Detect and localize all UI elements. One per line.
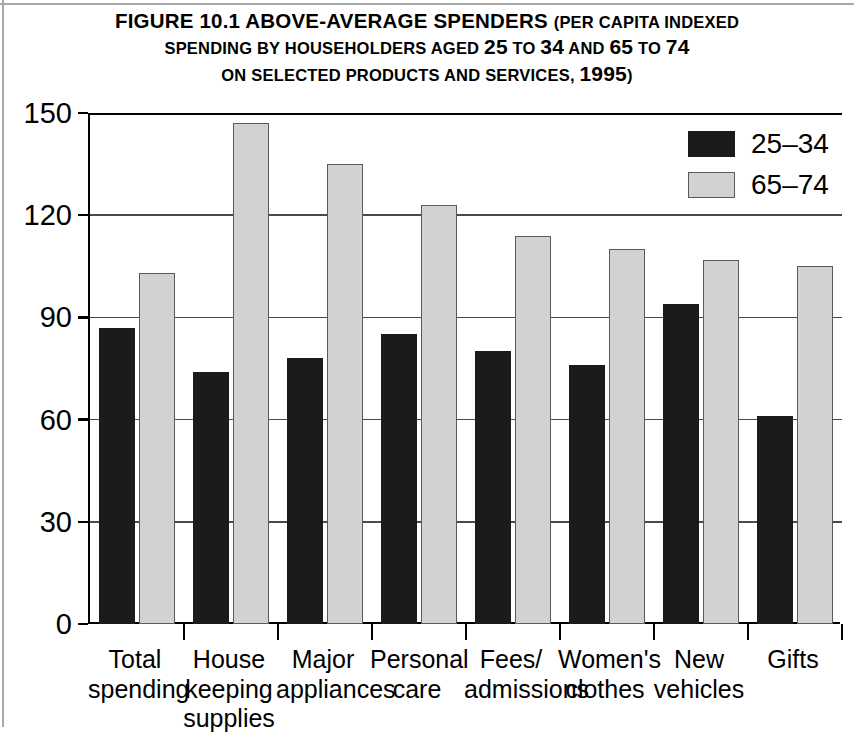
y-axis-label-30: 30: [0, 505, 72, 538]
y-tick-90: [78, 316, 88, 319]
bar-series-25-34: [663, 304, 699, 624]
x-axis-label-line: Gifts: [746, 645, 840, 675]
x-axis-label: Gifts: [746, 645, 840, 675]
y-tick-0: [78, 623, 88, 626]
x-axis-label-line: spending: [88, 675, 182, 705]
chart-legend: 25–3465–74: [688, 128, 838, 210]
bar-series-65-74: [515, 236, 551, 624]
figure-title-line-1: Figure 10.1 Above-Average Spenders (per …: [40, 8, 814, 33]
title-year: 1995: [579, 62, 627, 85]
legend-label: 65–74: [751, 169, 829, 201]
legend-swatch-light: [688, 172, 735, 198]
x-tick: [747, 624, 750, 640]
bar-group: [90, 113, 184, 624]
x-axis-label-line: Women's: [558, 645, 652, 675]
title-figure-number: Figure 10.1: [115, 9, 245, 32]
title-to-1: to: [508, 39, 541, 57]
bar-series-65-74: [327, 164, 363, 624]
figure-title-line-3: on selected products and services, 1995): [40, 61, 814, 87]
x-tick: [465, 624, 468, 640]
bar-series-65-74: [233, 123, 269, 624]
bar-series-65-74: [421, 205, 457, 624]
title-age-74: 74: [666, 35, 690, 58]
bar-group: [278, 113, 372, 624]
figure-title: Figure 10.1 Above-Average Spenders (per …: [40, 8, 814, 87]
x-axis-label-line: House: [182, 645, 276, 675]
x-axis-label: Women'sclothes: [558, 645, 652, 704]
title-close-paren: ): [627, 66, 633, 84]
title-subphrase-1: (per capita indexed: [554, 13, 739, 31]
y-axis-label-60: 60: [0, 403, 72, 436]
x-axis-label-line: care: [370, 675, 464, 705]
x-tick: [841, 624, 844, 640]
x-axis-label-line: vehicles: [652, 675, 746, 705]
bar-series-65-74: [797, 266, 833, 624]
y-tick-60: [78, 418, 88, 421]
y-tick-120: [78, 214, 88, 217]
bar-group: [466, 113, 560, 624]
x-tick: [653, 624, 656, 640]
y-tick-150: [78, 112, 88, 115]
x-axis-label-line: clothes: [558, 675, 652, 705]
bar-series-25-34: [287, 358, 323, 624]
x-axis-label-line: supplies: [182, 704, 276, 734]
bar-group: [560, 113, 654, 624]
x-tick: [371, 624, 374, 640]
x-axis-label-line: Fees/: [464, 645, 558, 675]
x-axis-label-line: keeping: [182, 675, 276, 705]
x-axis-label-line: Major: [276, 645, 370, 675]
figure-title-line-2: spending by householders aged 25 to 34 a…: [40, 34, 814, 60]
legend-label: 25–34: [751, 128, 829, 160]
x-axis-label: Newvehicles: [652, 645, 746, 704]
bar-series-65-74: [139, 273, 175, 624]
legend-entry: 25–34: [688, 128, 838, 160]
bar-series-25-34: [193, 372, 229, 624]
x-tick: [183, 624, 186, 640]
bar-series-25-34: [99, 328, 135, 624]
title-and: and: [564, 39, 609, 57]
x-axis-label: Housekeepingsupplies: [182, 645, 276, 734]
bar-series-65-74: [609, 249, 645, 624]
bar-series-25-34: [381, 334, 417, 624]
x-tick: [559, 624, 562, 640]
title-to-2: to: [633, 39, 666, 57]
x-axis-label-line: Personal: [370, 645, 464, 675]
title-age-25: 25: [484, 35, 508, 58]
x-axis-label: Totalspending: [88, 645, 182, 704]
bar-series-65-74: [703, 260, 739, 625]
bar-group: [372, 113, 466, 624]
x-axis-label-line: New: [652, 645, 746, 675]
x-tick: [277, 624, 280, 640]
x-axis-label: Majorappliances: [276, 645, 370, 704]
title-subphrase-3: on selected products and services,: [221, 66, 579, 84]
bar-group: [184, 113, 278, 624]
x-axis-label-line: Total: [88, 645, 182, 675]
bar-series-25-34: [475, 351, 511, 624]
y-axis-label-120: 120: [0, 199, 72, 232]
bar-series-25-34: [569, 365, 605, 624]
y-axis-label-90: 90: [0, 301, 72, 334]
page-edge-rule-top: [0, 3, 854, 5]
title-main-phrase: Above-Average Spenders: [245, 9, 553, 32]
bar-series-25-34: [757, 416, 793, 624]
legend-swatch-dark: [688, 131, 735, 157]
legend-entry: 65–74: [688, 169, 838, 201]
y-tick-30: [78, 521, 88, 524]
y-axis-label-150: 150: [0, 97, 72, 130]
title-age-34: 34: [540, 35, 564, 58]
x-axis-label-line: appliances: [276, 675, 370, 705]
title-age-65: 65: [609, 35, 633, 58]
x-axis-label-line: admissions: [464, 675, 558, 705]
x-axis-label: Personalcare: [370, 645, 464, 704]
x-axis-category-labels: TotalspendingHousekeepingsuppliesMajorap…: [88, 645, 840, 725]
x-axis-label: Fees/admissions: [464, 645, 558, 704]
y-axis-label-0: 0: [0, 608, 72, 641]
title-subphrase-2: spending by householders aged: [164, 39, 484, 57]
